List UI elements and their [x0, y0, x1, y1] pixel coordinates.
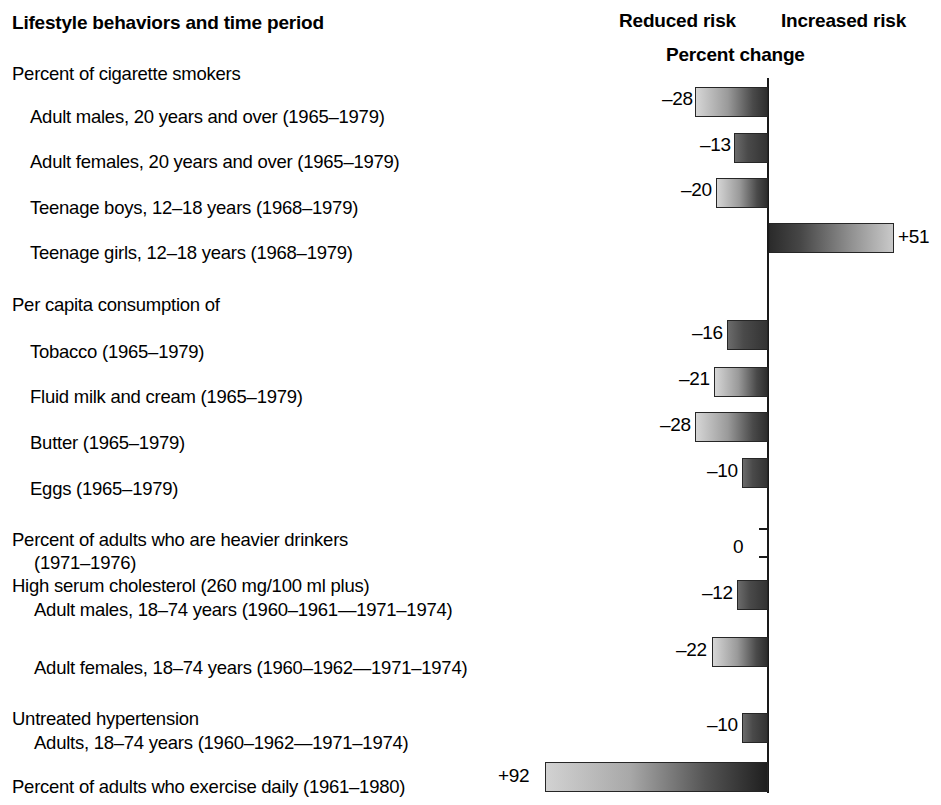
bar	[742, 713, 768, 743]
row-label: Per capita consumption of	[12, 293, 220, 316]
bar-value-label: +92	[498, 765, 529, 787]
bar-value-label: –28	[662, 88, 693, 110]
bar-value-label: –16	[692, 322, 723, 344]
bar	[742, 458, 768, 488]
bar	[695, 412, 768, 442]
row-label: Adult males, 20 years and over (1965–197…	[30, 105, 385, 128]
row-label: Untreated hypertension	[12, 707, 199, 730]
row-label: Butter (1965–1979)	[30, 431, 185, 454]
row-label: Adult females, 18–74 years (1960–1962—19…	[34, 656, 467, 679]
bar	[727, 320, 768, 350]
bar-value-label: –22	[676, 639, 707, 661]
row-label: Percent of adults who are heavier drinke…	[12, 528, 348, 551]
bar-value-label: –10	[707, 460, 738, 482]
row-label: Eggs (1965–1979)	[30, 477, 178, 500]
bar	[716, 178, 768, 208]
row-label: Percent of cigarette smokers	[12, 62, 240, 85]
bar	[714, 367, 768, 397]
zero-tick-lower	[759, 556, 768, 558]
row-label: Adult males, 18–74 years (1960–1961—1971…	[34, 598, 452, 621]
row-label: Teenage boys, 12–18 years (1968–1979)	[30, 196, 358, 219]
bar	[737, 580, 768, 610]
bar	[734, 133, 768, 163]
bar-value-label: +51	[898, 226, 929, 248]
row-label: High serum cholesterol (260 mg/100 ml pl…	[12, 574, 369, 597]
bar-value-label: –12	[702, 582, 733, 604]
chart-root: Reduced risk Increased risk Percent chan…	[0, 0, 941, 805]
zero-tick-upper	[759, 528, 768, 530]
bar-value-label: –13	[700, 134, 731, 156]
bar-value-label: –21	[679, 368, 710, 390]
row-label: (1971–1976)	[34, 551, 136, 574]
row-label: Adult females, 20 years and over (1965–1…	[30, 150, 400, 173]
bar-value-label: –20	[681, 179, 712, 201]
row-label: Adults, 18–74 years (1960–1962—1971–1974…	[34, 731, 408, 754]
bar	[545, 762, 768, 792]
row-label: Percent of adults who exercise daily (19…	[12, 775, 405, 798]
bar-value-label: 0	[733, 536, 743, 558]
bar	[712, 637, 768, 667]
bar	[769, 223, 894, 253]
bar	[695, 87, 768, 117]
bar-value-label: –28	[660, 414, 691, 436]
row-label: Fluid milk and cream (1965–1979)	[30, 385, 303, 408]
bar-value-label: –10	[707, 714, 738, 736]
row-label: Teenage girls, 12–18 years (1968–1979)	[30, 241, 353, 264]
row-label: Tobacco (1965–1979)	[30, 340, 204, 363]
